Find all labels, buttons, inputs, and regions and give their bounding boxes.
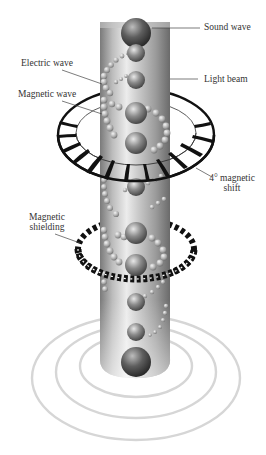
label-magnetic-shielding: Magnetic shielding (22, 212, 72, 232)
label-magnetic-shielding-line2: shielding (22, 222, 72, 232)
label-magnetic-shift-line1: 4° magnetic (204, 173, 260, 183)
label-magnetic-shift: 4° magnetic shift (204, 173, 260, 193)
label-electric-wave: Electric wave (21, 58, 73, 68)
label-magnetic-wave: Magnetic wave (18, 89, 76, 99)
label-magnetic-shielding-line1: Magnetic (22, 212, 72, 222)
label-sound-wave: Sound wave (204, 22, 251, 32)
label-magnetic-shift-line2: shift (204, 183, 260, 193)
label-light-beam: Light beam (204, 74, 248, 84)
